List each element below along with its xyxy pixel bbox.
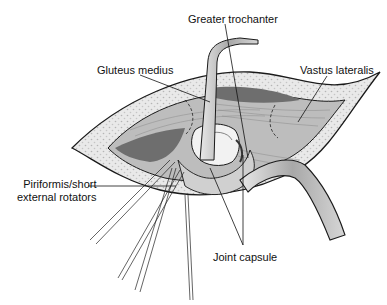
label-greater-trochanter: Greater trochanter	[188, 13, 278, 26]
label-piriformis-line2: external rotators	[17, 191, 96, 204]
illustration	[0, 0, 387, 305]
femoral-head	[192, 124, 240, 165]
label-gluteus-medius: Gluteus medius	[97, 64, 173, 77]
label-piriformis-line1: Piriformis/short	[17, 178, 96, 191]
label-piriformis: Piriformis/short external rotators	[17, 178, 96, 204]
label-vastus-lateralis: Vastus lateralis	[300, 64, 374, 77]
label-joint-capsule: Joint capsule	[213, 251, 277, 264]
surgical-diagram: Greater trochanter Gluteus medius Vastus…	[0, 0, 387, 305]
retractor-right	[240, 160, 345, 240]
